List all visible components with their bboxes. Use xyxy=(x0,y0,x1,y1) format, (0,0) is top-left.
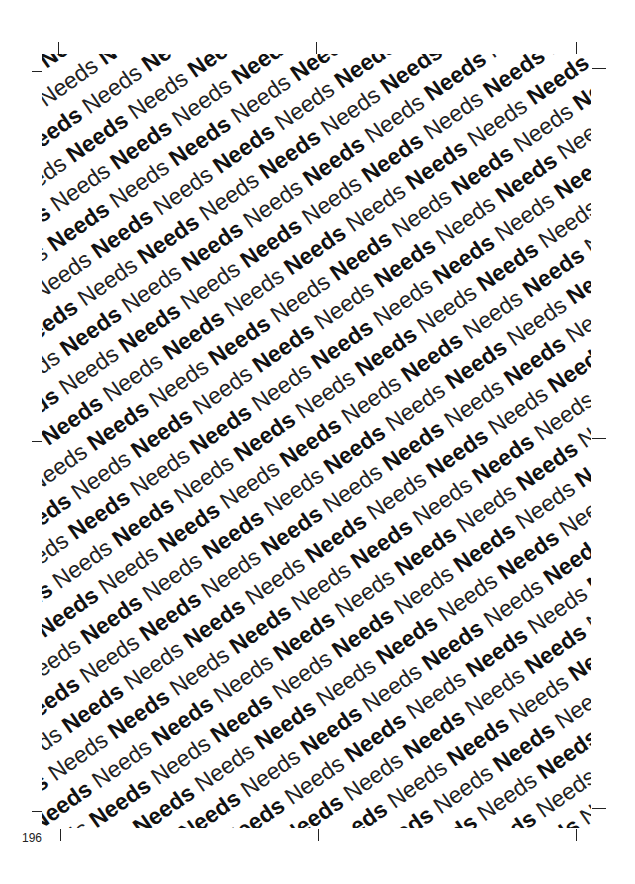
crop-mark-bottom-left-vertical xyxy=(60,829,61,841)
crop-mark-bottom-right-vertical xyxy=(576,829,577,841)
crop-mark-top-right-horizontal xyxy=(592,68,606,69)
crop-mark-top-left-vertical xyxy=(58,42,59,54)
crop-mark-top-left-horizontal xyxy=(32,71,42,72)
crop-mark-bottom-center-vertical xyxy=(318,829,319,841)
crop-mark-middle-right-horizontal xyxy=(592,438,606,439)
crop-mark-bottom-right-horizontal xyxy=(592,808,606,809)
crop-mark-bottom-left-horizontal xyxy=(32,811,42,812)
crop-mark-top-right-vertical xyxy=(576,42,577,54)
crop-mark-top-center-vertical xyxy=(316,42,317,54)
needs-word-pattern: Needs Needs Needs Needs Needs Needs Need… xyxy=(42,54,591,828)
page-number: 196 xyxy=(22,831,42,845)
typographic-pattern-area: Needs Needs Needs Needs Needs Needs Need… xyxy=(42,54,591,828)
crop-mark-middle-left-horizontal xyxy=(32,441,42,442)
